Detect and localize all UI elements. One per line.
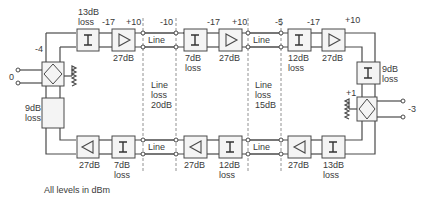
- amp-bottom-2-gain: 27dB: [184, 160, 205, 170]
- isolator-bottom-2-loss: 12dBloss: [219, 160, 240, 180]
- amp-top-1-gain: 27dB: [113, 53, 134, 63]
- amplifier-bottom-1: [77, 136, 99, 158]
- level-top-2-in: -17: [207, 17, 220, 27]
- hybrid-right: [357, 97, 377, 121]
- level-line-top-2: -5: [275, 17, 283, 27]
- pad-right-loss: 9dBloss: [382, 64, 398, 84]
- line-bottom-1: Line: [148, 142, 165, 152]
- amp-top-2-gain: 27dB: [219, 53, 240, 63]
- amplifier-bottom-3: [288, 136, 311, 158]
- level-left-top: -4: [35, 44, 43, 54]
- amp-bottom-3-gain: 27dB: [288, 160, 309, 170]
- amplifier-top-2: [219, 29, 242, 51]
- isolator-bottom-1-loss: 7dBloss: [114, 160, 130, 180]
- level-top-1-out: +10: [126, 17, 141, 27]
- repeater-diagram: [0, 0, 432, 197]
- level-top-1-in: -17: [102, 17, 115, 27]
- amplifier-top-1: [112, 29, 135, 51]
- level-top-3-in: -17: [307, 17, 320, 27]
- isolator-top-2-loss: 7dBloss: [185, 53, 201, 73]
- pad-left: [42, 98, 64, 128]
- pad-left-loss: 9dBloss: [25, 103, 41, 123]
- level-top-3-out: +10: [345, 15, 360, 25]
- level-top-2-out: +10: [232, 17, 247, 27]
- isolator-bottom-3-loss: 13dBloss: [323, 160, 344, 180]
- amp-bottom-1-gain: 27dB: [79, 160, 100, 170]
- line-loss-section-2: Lineloss15dB: [255, 80, 276, 110]
- line-top-2: Line: [253, 35, 270, 45]
- caption: All levels in dBm: [44, 185, 110, 195]
- line-bottom-2: Line: [253, 142, 270, 152]
- amplifier-bottom-2: [184, 136, 207, 158]
- line-loss-section-1: Lineloss20dB: [151, 80, 172, 110]
- level-right-output: -3: [408, 104, 416, 114]
- level-right-top: +1: [346, 88, 356, 98]
- amp-top-3-gain: 27dB: [322, 53, 343, 63]
- level-left-input: 0: [9, 72, 14, 82]
- line-top-1: Line: [148, 35, 165, 45]
- hybrid-left: [42, 62, 64, 86]
- isolator-top-3-loss: 12dBloss: [288, 53, 309, 73]
- level-line-top-1: -10: [160, 17, 173, 27]
- amplifier-top-3: [322, 29, 345, 51]
- isolator-top-1-loss: 13dBloss: [78, 7, 99, 27]
